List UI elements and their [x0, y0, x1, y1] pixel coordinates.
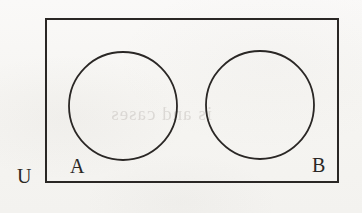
- venn-diagram-graphic: [0, 0, 362, 213]
- set-label-a: A: [70, 156, 84, 176]
- set-b-circle: [206, 51, 314, 159]
- universe-label-u: U: [17, 166, 31, 186]
- universe-rectangle: [46, 19, 338, 182]
- set-label-b: B: [312, 155, 325, 175]
- set-a-circle: [69, 52, 177, 160]
- venn-diagram-canvas: is and cases U A B: [0, 0, 362, 213]
